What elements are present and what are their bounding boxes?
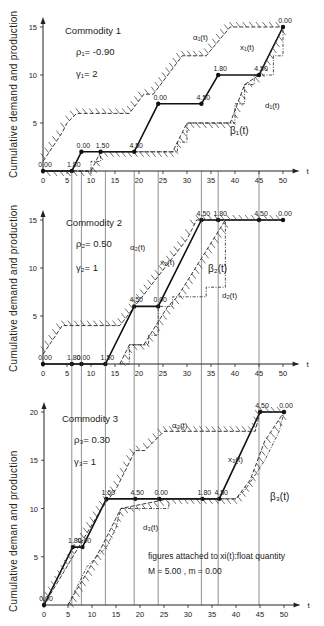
- x-axis-arrow-icon: [294, 603, 300, 608]
- point-label: 4.50: [197, 94, 211, 101]
- y-tick-label: 5: [33, 312, 37, 321]
- series-label-beta: β₂(t): [208, 263, 227, 274]
- y-tick-label: 5: [34, 553, 38, 562]
- panel-1: t05101520253035404550510150.001.800.001.…: [29, 17, 310, 185]
- x-tick-label: 35: [208, 610, 216, 619]
- panel-3-gamma: γ₃= 1: [74, 456, 96, 467]
- data-point: [98, 150, 102, 154]
- point-label: 0.00: [77, 142, 91, 149]
- series-label-x: x₃(t): [228, 455, 243, 464]
- point-label: 0.00: [78, 537, 92, 544]
- x-tick-label: 20: [135, 369, 143, 378]
- y-tick-label: 10: [30, 505, 38, 514]
- y-tick-label: 15: [30, 456, 38, 465]
- point-label: 4.50: [255, 402, 269, 409]
- x-tick-label: 20: [135, 176, 143, 185]
- x-tick-label: 25: [159, 369, 167, 378]
- x-tick-label: 50: [279, 176, 287, 185]
- panel-2: t05101520253035404550510150.001.800.001.…: [29, 210, 310, 378]
- data-point: [217, 497, 221, 501]
- panel-1-rho: ρ₁= -0.90: [76, 46, 114, 57]
- x-tick-label: 30: [184, 610, 192, 619]
- data-point: [258, 410, 262, 414]
- point-label: 0.00: [39, 595, 53, 602]
- y-axis-label-1: Cumulative demand and production: [8, 11, 19, 178]
- data-point: [132, 150, 136, 154]
- y-tick-label: 15: [29, 216, 37, 225]
- x-tick-label: 15: [111, 176, 119, 185]
- x-tick-label: 25: [160, 610, 168, 619]
- point-label: 1.80: [213, 65, 227, 72]
- x-tick-label: 5: [66, 610, 70, 619]
- series-label-beta: β₁(t): [230, 125, 249, 136]
- data-point: [216, 73, 220, 77]
- y-axis-arrow-icon: [41, 17, 46, 24]
- data-point: [281, 218, 285, 222]
- data-point: [41, 169, 45, 173]
- y-tick-label: 5: [33, 119, 37, 128]
- footnote-bounds: M = 5.00 , m = 0.00: [148, 566, 222, 576]
- panel-1-gamma: γ₁= 2: [76, 68, 97, 79]
- point-label: 1.50: [101, 354, 115, 361]
- panel-3-title: Commodity 3: [62, 413, 118, 424]
- x-tick-label: 35: [207, 369, 215, 378]
- point-label: 4.50: [129, 142, 143, 149]
- point-label: 0.00: [77, 354, 91, 361]
- series-label-d: d₁(t): [265, 101, 280, 110]
- data-point: [133, 497, 137, 501]
- data-point: [104, 497, 108, 501]
- point-label: 4.50: [254, 210, 268, 217]
- x-tick-label: 40: [231, 176, 239, 185]
- point-label: 4.50: [254, 65, 268, 72]
- data-point: [80, 545, 84, 549]
- x-tick-label: 30: [183, 176, 191, 185]
- x-axis-label: t: [308, 601, 311, 610]
- series-beta2t: [120, 220, 226, 364]
- x-tick-label: 5: [65, 176, 69, 185]
- x-tick-label: 10: [87, 176, 95, 185]
- x-tick-label: 15: [112, 610, 120, 619]
- chart-canvas: t05101520253035404550510150.001.800.001.…: [0, 0, 324, 626]
- data-point: [156, 102, 160, 106]
- x-axis-arrow-icon: [293, 362, 299, 367]
- panel-3-rho: ρ₃= 0.30: [74, 434, 110, 445]
- point-label: 0.00: [153, 296, 167, 303]
- point-label: 1.80: [198, 489, 212, 496]
- point-label: 1.50: [102, 489, 116, 496]
- footnote-float-quantity: figures attached to xi(t):float quantity: [148, 551, 285, 561]
- x-tick-label: 40: [232, 610, 240, 619]
- x-tick-label: 10: [87, 369, 95, 378]
- x-tick-label: 5: [65, 369, 69, 378]
- point-label: 0.00: [153, 94, 167, 101]
- point-label: 4.50: [129, 296, 143, 303]
- x-axis-label: t: [307, 360, 310, 369]
- data-point: [282, 410, 286, 414]
- panel-2-rho: ρ₂= 0.50: [76, 238, 112, 249]
- data-point: [199, 102, 203, 106]
- x-tick-label: 0: [41, 369, 45, 378]
- point-label: 4.50: [214, 489, 228, 496]
- series-label-alpha: α₃(t): [172, 421, 188, 430]
- panel-2-gamma: γ₂= 1: [76, 262, 98, 273]
- x-tick-label: 25: [159, 176, 167, 185]
- x-tick-label: 15: [111, 369, 119, 378]
- series-label-alpha: α₂(t): [130, 243, 146, 252]
- point-label: 0.00: [278, 17, 292, 24]
- point-label: 0.00: [279, 402, 293, 409]
- point-label: 1.80: [67, 161, 81, 168]
- y-axis-arrow-icon: [41, 210, 46, 217]
- series-d2t: [120, 220, 226, 364]
- y-tick-label: 10: [29, 71, 37, 80]
- series-label-x: x₁(t): [240, 43, 255, 52]
- data-point: [281, 25, 285, 29]
- x-tick-label: 0: [41, 176, 45, 185]
- data-point: [157, 497, 161, 501]
- x-tick-label: 20: [136, 610, 144, 619]
- x-tick-label: 0: [42, 610, 46, 619]
- data-point: [42, 603, 46, 607]
- data-point: [41, 362, 45, 366]
- y-tick-label: 15: [29, 23, 37, 32]
- series-label-beta: β₃(t): [270, 491, 289, 502]
- y-axis-arrow-icon: [42, 402, 47, 409]
- data-point: [257, 73, 261, 77]
